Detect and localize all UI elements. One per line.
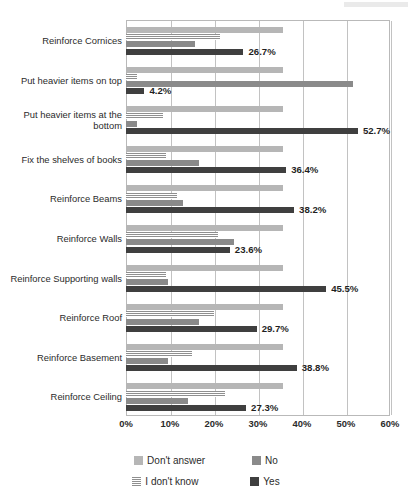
category-axis-label: Put heavier items at the bottom [2,109,122,132]
bar-no [126,160,199,166]
legend-swatch-icon-i-dont-know [132,477,141,486]
bar-group: 29.7% [126,297,390,337]
bar-group: 23.6% [126,218,390,258]
bar-group: 36.4% [126,139,390,179]
category-axis-label: Reinforce Cornices [2,35,122,46]
bar-yes [126,167,286,173]
bar-yes [126,49,243,55]
chart-category-group: Fix the shelves of books36.4% [0,139,412,179]
chart-category-group: Put heavier items at the bottom52.7% [0,99,412,139]
legend-row-2: I don't know Yes [0,471,412,492]
chart-category-group: Reinforce Ceiling27.3% [0,376,412,416]
chart-category-group: Reinforce Cornices26.7% [0,20,412,60]
bar-value-label: 45.5% [331,284,358,294]
bar-dontanswer [126,146,283,152]
bar-idontknow [126,232,218,238]
legend-item-no[interactable]: No [252,455,278,466]
bar-idontknow [126,153,166,159]
category-axis-label: Reinforce Ceiling [2,391,122,402]
bar-value-label: 23.6% [235,245,262,255]
category-axis-label: Reinforce Roof [2,312,122,323]
bar-yes [126,286,326,292]
bar-no [126,239,234,245]
bar-dontanswer [126,304,283,310]
bar-value-label: 38.2% [299,205,326,215]
bar-idontknow [126,272,166,278]
x-axis-tick-label: 20% [205,418,224,429]
legend-swatch-icon-yes [250,477,259,486]
bar-yes [126,207,294,213]
bar-value-label: 29.7% [262,324,289,334]
bar-value-label: 52.7% [363,126,390,136]
chart-legend: Don't answer No I don't know Yes [0,450,412,492]
x-axis-tick-label: 40% [293,418,312,429]
bar-no [126,358,168,364]
x-axis-tick-label: 10% [161,418,180,429]
bar-dontanswer [126,67,283,73]
bar-dontanswer [126,344,283,350]
corner-artifact [344,2,408,7]
category-axis-label: Fix the shelves of books [2,154,122,165]
bar-no [126,279,168,285]
category-rows: Reinforce Cornices26.7%Put heavier items… [0,20,412,416]
x-axis-tick-label: 60% [381,418,400,429]
category-axis-label: Reinforce Walls [2,233,122,244]
bar-group: 45.5% [126,258,390,298]
bar-yes [126,405,246,411]
x-axis-tick-label: 50% [337,418,356,429]
bar-value-label: 4.2% [149,86,171,96]
bar-dontanswer [126,265,283,271]
bar-idontknow [126,193,177,199]
legend-label-no: No [265,455,278,466]
bar-dontanswer [126,225,283,231]
bar-chart: Reinforce Cornices26.7%Put heavier items… [0,0,412,502]
bar-yes [126,326,257,332]
legend-label-i-dont-know: I don't know [145,476,198,487]
chart-category-group: Reinforce Beams38.2% [0,178,412,218]
legend-item-dont-answer[interactable]: Don't answer [134,455,252,466]
bar-yes [126,365,297,371]
legend-item-i-dont-know[interactable]: I don't know [132,476,250,487]
bar-idontknow [126,34,220,40]
bar-no [126,41,195,47]
chart-category-group: Reinforce Walls23.6% [0,218,412,258]
bar-group: 52.7% [126,99,390,139]
bar-yes [126,128,358,134]
bar-dontanswer [126,185,283,191]
legend-label-yes: Yes [263,476,279,487]
bar-idontknow [126,311,214,317]
bar-yes [126,247,230,253]
chart-category-group: Reinforce Supporting walls45.5% [0,258,412,298]
bar-group: 26.7% [126,20,390,60]
bar-group: 38.2% [126,178,390,218]
legend-row-1: Don't answer No [0,450,412,471]
bar-idontknow [126,391,225,397]
bar-group: 4.2% [126,60,390,100]
bar-group: 27.3% [126,376,390,416]
bar-dontanswer [126,106,283,112]
bar-no [126,121,137,127]
legend-label-dont-answer: Don't answer [147,455,205,466]
x-axis-tick-label: 0% [119,418,133,429]
bar-dontanswer [126,383,283,389]
bar-yes [126,88,144,94]
chart-category-group: Reinforce Roof29.7% [0,297,412,337]
bar-group: 38.8% [126,337,390,377]
chart-category-group: Reinforce Basement38.8% [0,337,412,377]
chart-category-group: Put heavier items on top4.2% [0,60,412,100]
bar-dontanswer [126,27,283,33]
legend-item-yes[interactable]: Yes [250,476,279,487]
bar-value-label: 38.8% [302,363,329,373]
legend-swatch-icon-no [252,456,261,465]
x-axis-tick-label: 30% [249,418,268,429]
bar-idontknow [126,74,137,80]
bar-value-label: 36.4% [291,165,318,175]
bar-idontknow [126,113,163,119]
legend-swatch-icon-dont-answer [134,456,143,465]
bar-value-label: 26.7% [248,47,275,57]
bar-no [126,200,183,206]
x-axis: 0%10%20%30%40%50%60% [0,418,412,434]
bar-no [126,319,199,325]
category-axis-label: Reinforce Beams [2,193,122,204]
category-axis-label: Reinforce Supporting walls [2,273,122,284]
